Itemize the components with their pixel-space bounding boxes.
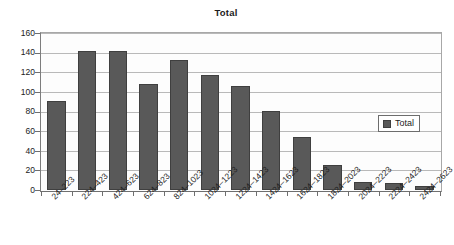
bars-layer: [41, 33, 440, 190]
x-tick-mark: [440, 191, 441, 196]
bar[interactable]: [109, 51, 127, 190]
chart-legend: Total: [378, 115, 420, 132]
legend-label-total: Total: [395, 119, 414, 128]
bar-slot: [72, 33, 103, 190]
chart-title: Total: [0, 7, 452, 18]
bar-slot: [164, 33, 195, 190]
bar-slot: [41, 33, 72, 190]
y-tick-label: 40: [5, 147, 35, 156]
bar[interactable]: [78, 51, 96, 190]
y-tick-label: 60: [5, 127, 35, 136]
bar-slot: [133, 33, 164, 190]
y-tick-label: 160: [5, 29, 35, 38]
legend-swatch-total-icon: [383, 120, 391, 128]
y-tick-label: 140: [5, 48, 35, 57]
x-axis-labels: 24–223224–423424–623624–823824–10231024–…: [41, 191, 440, 245]
bar-slot: [102, 33, 133, 190]
y-tick-label: 20: [5, 166, 35, 175]
bar-slot: [194, 33, 225, 190]
y-tick-label: 100: [5, 88, 35, 97]
bar[interactable]: [139, 84, 157, 190]
bar[interactable]: [47, 101, 65, 190]
y-tick-label: 0: [5, 186, 35, 195]
y-axis: 160140120100806040200: [0, 32, 35, 191]
y-tick-label: 120: [5, 68, 35, 77]
y-tick-label: 80: [5, 107, 35, 116]
bar[interactable]: [170, 60, 188, 191]
